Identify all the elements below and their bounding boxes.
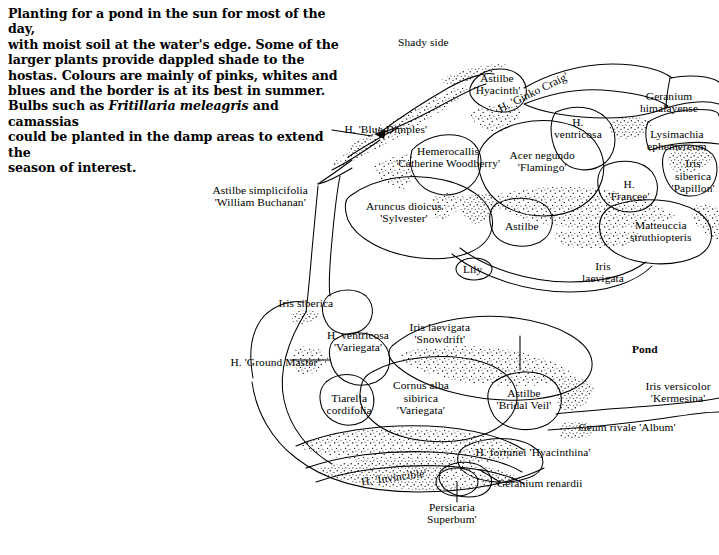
plant-label-hemerocallis-catherine: Hemerocallis 'Catherine Woodberry' — [396, 145, 500, 170]
annotation-pond: Pond — [632, 343, 658, 356]
plant-label-iris-siberica-left: Iris siberica — [279, 297, 334, 310]
plant-label-acer-negundo-flamingo: Acer negundo 'Flamingo' — [510, 149, 575, 174]
plant-label-geranium-himalayense: Geranium himalayense — [640, 90, 698, 115]
plant-label-astilbe-simplicifolia: Astilbe simplicifolia 'William Buchanan' — [213, 184, 308, 209]
plant-label-h-fortunei: H. fortunei 'Hyacinthina' — [476, 446, 591, 459]
bed-edge-taper2-bottom — [318, 168, 352, 184]
plant-label-cornus-alba: Cornus alba sibirica 'Variegata' — [393, 379, 449, 417]
annotation-shady-side: Shady side — [398, 36, 449, 49]
plant-label-iris-laevigata: Iris laevigata — [582, 260, 624, 285]
plant-label-persicaria-superbum: Persicaria Superbum' — [427, 501, 477, 526]
plant-label-iris-versicolor: Iris versicolor 'Kermesina' — [646, 380, 711, 405]
plant-label-geum-rivale-album: Geum rivale 'Album' — [579, 421, 676, 434]
plant-label-h-ground-master: H. 'Ground Master' — [231, 356, 320, 369]
plant-label-aruncus-dioicus: Aruncus dioicus 'Sylvester' — [366, 200, 442, 225]
annotation-lily: Lily — [463, 263, 482, 276]
plant-label-h-francee: H. 'Francee' — [609, 178, 650, 203]
plant-label-astilbe-bridal-veil: Astilbe 'Bridal Veil' — [497, 387, 552, 412]
plant-label-h-ventricosa: H. ventricosa — [554, 116, 602, 141]
plant-label-iris-laevigata-snowdrift: Iris laevigata 'Snowdrift' — [410, 321, 471, 346]
plant-label-iris-sibirica-papillon: Iris siberica 'Papillon' — [672, 157, 715, 195]
bed-edge-left-inner — [329, 176, 340, 296]
pond-edge-upper-left — [251, 316, 264, 378]
plant-label-h-blue-dimples: H. 'Blue Dimples' — [345, 123, 428, 136]
plant-label-h-ventricosa-variegata: H. ventricosa 'Variegata' — [327, 329, 389, 354]
plant-label-lysimachia-ephemereum: Lysimachia ephemereum — [647, 128, 707, 153]
plant-label-astilbe-plain: Astilbe — [505, 220, 539, 233]
plant-label-geranium-renardii: Geranium renardii — [497, 477, 583, 490]
plant-label-astilbe-hyacinth: Astilbe 'Hyacinth' — [474, 72, 521, 97]
bed-geranium-top — [670, 76, 719, 82]
plant-label-matteuccia: Matteuccia struthiopteris — [630, 219, 692, 244]
planting-plan-page: Planting for a pond in the sun for most … — [0, 0, 719, 555]
plant-label-tiarella-cordifolia: Tiarella cordifolia — [327, 392, 372, 417]
